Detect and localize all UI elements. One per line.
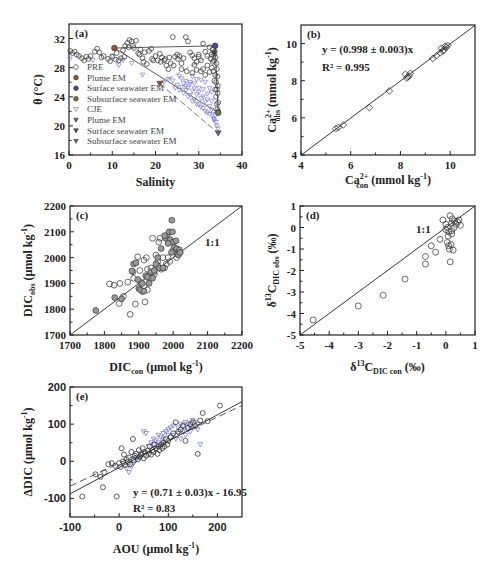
y-tick-label: 1800 (44, 303, 67, 315)
data-point (80, 494, 85, 499)
x-tick-label: 1800 (93, 339, 116, 351)
x-tick-label: 0 (66, 159, 72, 171)
data-point (142, 299, 148, 305)
y-tick-label: 0 (291, 222, 297, 234)
data-point (217, 403, 222, 408)
data-point (74, 75, 79, 80)
data-point (177, 250, 183, 256)
legend-entry: Surface seawater EM (87, 83, 164, 93)
data-point (203, 80, 208, 84)
x-axis-label: DICcon (µmol kg-1) (109, 359, 203, 376)
data-point (183, 433, 188, 437)
y-tick-label: -2 (287, 265, 297, 277)
data-point (179, 67, 184, 72)
data-point (173, 238, 179, 244)
x-tick-label: 8 (398, 159, 404, 171)
data-point (169, 250, 175, 256)
data-point (196, 86, 201, 90)
data-point (422, 261, 428, 267)
data-point (178, 437, 183, 441)
data-point (132, 301, 138, 307)
data-point (144, 432, 149, 436)
data-point (402, 276, 408, 282)
x-tick-label: 30 (193, 159, 205, 171)
data-point (215, 102, 220, 107)
data-point (179, 61, 184, 66)
data-point (169, 217, 175, 223)
data-point (119, 446, 124, 451)
data-point (205, 92, 210, 96)
y-tick-label: 10 (286, 38, 298, 50)
x-axis-label: AOU (µmol kg-1) (113, 541, 199, 556)
data-point (116, 64, 121, 68)
data-point (137, 268, 143, 274)
x-tick-label: 1 (472, 339, 478, 351)
data-point (112, 45, 118, 51)
data-point (310, 317, 316, 323)
data-point (74, 118, 79, 122)
data-point (74, 129, 79, 133)
dashed-fit-line (70, 406, 242, 487)
data-point (177, 88, 182, 92)
y-tick-label: 28 (54, 62, 66, 74)
regression-equation: y = (0.998 ± 0.003)x (322, 43, 414, 56)
one-to-one-label: 1:1 (416, 223, 431, 235)
legend-entry: Subsurface seawater EM (87, 94, 176, 104)
data-point (192, 82, 197, 86)
data-point (215, 110, 221, 116)
y-tick-label: 2000 (44, 252, 67, 264)
data-point (200, 411, 205, 416)
y-axis-label: ΔDIC (µmol kg-1) (20, 407, 35, 496)
data-point (74, 65, 79, 70)
x-tick-label: 6 (348, 159, 354, 171)
legend-entry: CJE (87, 104, 103, 114)
figure: 0102030401620242832(a)PREPlume EMSurface… (0, 0, 495, 571)
data-point (366, 104, 373, 111)
data-point (437, 236, 443, 242)
panel-label: (c) (76, 209, 89, 222)
x-tick-label: -1 (412, 339, 421, 351)
x-tick-label: -2 (383, 339, 393, 351)
data-point (150, 235, 156, 241)
legend-entry: Surface seawater EM (87, 126, 164, 136)
data-point (422, 254, 428, 260)
data-point (203, 73, 208, 78)
data-point (186, 39, 191, 44)
data-point (129, 268, 135, 274)
panel-label: (e) (76, 390, 89, 403)
x-tick-label: 10 (107, 159, 119, 171)
data-point (166, 67, 171, 72)
x-tick-label: -3 (354, 339, 364, 351)
panel-d: -5-4-3-2-101-5-4-3-2-101(d)1:1δ13CDIC co… (264, 200, 478, 376)
data-point (215, 67, 220, 72)
y-axis-label: θ (°C) (31, 74, 45, 105)
data-point (433, 249, 439, 255)
data-point (74, 139, 79, 143)
data-point (127, 471, 132, 475)
x-tick-label: 2100 (197, 339, 220, 351)
panel-label: (d) (306, 209, 320, 222)
data-point (160, 265, 166, 271)
data-point (198, 443, 203, 447)
data-point (119, 296, 125, 302)
data-point (133, 260, 139, 266)
x-tick-label: 20 (150, 159, 162, 171)
y-axis-label: DICobs (µmol kg-1) (20, 224, 37, 317)
data-point (201, 88, 206, 92)
data-point (450, 247, 456, 253)
data-point (140, 73, 145, 77)
y-tick-label: 1700 (44, 329, 67, 341)
data-point (156, 239, 162, 245)
y-tick-label: 16 (54, 149, 66, 161)
y-tick-label: 6 (292, 112, 298, 124)
data-point (150, 57, 155, 62)
data-point (139, 281, 145, 287)
panel-label: (a) (75, 27, 88, 40)
data-point (129, 61, 134, 65)
data-point (74, 108, 79, 112)
x-tick-label: 100 (159, 521, 177, 533)
data-point (122, 452, 127, 457)
r-squared: R² = 0.83 (133, 502, 176, 514)
data-point (117, 281, 123, 287)
y-tick-label: 20 (54, 120, 66, 132)
